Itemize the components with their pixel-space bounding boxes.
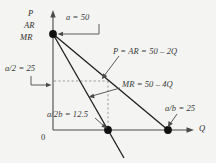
leader-ar-quantity-arrow-icon	[168, 121, 173, 127]
y-axis-label-mr: MR	[20, 33, 32, 42]
leader-ar-equation	[104, 56, 119, 76]
origin-label: 0	[41, 133, 45, 142]
leader-half-price	[31, 76, 47, 85]
leader-ar-quantity	[170, 114, 177, 124]
y-axis-label-ar: AR	[24, 21, 35, 30]
annotation-ar-equation: P = AR = 50 – 2Q	[113, 47, 177, 56]
x-axis-label-quantity: Q	[199, 124, 205, 133]
annotation-intercept: a = 50	[66, 13, 89, 22]
annotation-mr-quantity: a/2b = 12.5	[47, 110, 88, 119]
leader-intercept-arrow-icon	[58, 32, 64, 36]
leader-half-price-arrow-icon	[46, 83, 52, 87]
annotation-mr-equation: MR = 50 – 4Q	[122, 80, 173, 89]
leader-mr-equation	[92, 88, 120, 96]
leader-intercept	[61, 24, 99, 34]
point-vertical-intercept	[49, 30, 57, 38]
annotation-half-price: a/2 = 25	[5, 64, 35, 73]
annotation-ar-quantity: a/b = 25	[165, 104, 195, 113]
point-ar-x-intercept	[164, 126, 172, 134]
y-axis-arrow-icon	[50, 10, 55, 18]
x-axis-arrow-icon	[187, 127, 195, 132]
y-axis-label-price: P	[28, 9, 33, 18]
economics-ar-mr-diagram: P AR MR Q 0 a = 50 P = AR = 50 – 2Q MR =…	[0, 0, 216, 163]
